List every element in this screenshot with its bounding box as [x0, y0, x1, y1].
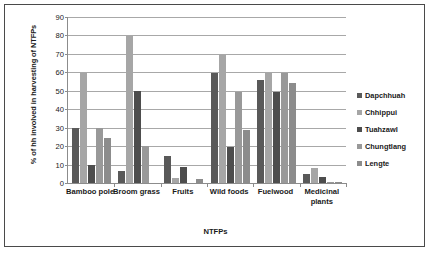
- y-axis-tick-mark: [65, 183, 68, 184]
- y-axis-tick-label: 80: [56, 31, 64, 40]
- x-axis-title: NTFPs: [5, 227, 426, 236]
- y-axis-tick-label: 60: [56, 68, 64, 77]
- y-axis-tick-label: 40: [56, 105, 64, 114]
- bar: [335, 182, 342, 183]
- plot-area: 0102030405060708090: [67, 17, 346, 184]
- bar-group: [68, 17, 114, 183]
- y-axis-tick-label: 90: [56, 13, 64, 22]
- legend-item: Chungtlang: [357, 138, 429, 155]
- y-axis-title: % of hh involved in harvesting of NTFPs: [29, 10, 38, 180]
- legend-label: Dapchhuah: [365, 91, 405, 100]
- bar-group: [300, 17, 346, 183]
- bar: [96, 128, 103, 183]
- legend-label: Chungtlang: [365, 142, 406, 151]
- bar: [134, 91, 141, 183]
- legend-swatch-icon: [357, 110, 362, 115]
- bar: [265, 73, 272, 183]
- y-axis-tick-label: 10: [56, 160, 64, 169]
- bar-group: [253, 17, 299, 183]
- bar: [243, 130, 250, 183]
- bar: [303, 174, 310, 183]
- bar: [72, 128, 79, 183]
- legend-item: Chhippui: [357, 104, 429, 121]
- bar: [327, 182, 334, 183]
- bar: [281, 73, 288, 183]
- bar: [196, 179, 203, 183]
- bar: [311, 168, 318, 183]
- chart-container: % of hh involved in harvesting of NTFPs …: [4, 4, 425, 247]
- y-axis-tick-label: 70: [56, 49, 64, 58]
- bar: [235, 92, 242, 183]
- legend-label: Tuahzawl: [365, 125, 398, 134]
- bar-group: [207, 17, 253, 183]
- bar: [180, 167, 187, 183]
- x-axis-category-label: Medicinal plants: [293, 187, 351, 207]
- legend-label: Chhippui: [365, 108, 397, 117]
- bar: [289, 83, 296, 183]
- legend-swatch-icon: [357, 161, 362, 166]
- bar: [88, 165, 95, 183]
- bar: [126, 36, 133, 183]
- bar: [104, 138, 111, 183]
- chart-legend: DapchhuahChhippuiTuahzawlChungtlangLengt…: [357, 87, 429, 172]
- bar: [227, 147, 234, 183]
- bar-group: [161, 17, 207, 183]
- bar: [219, 55, 226, 183]
- bar: [319, 177, 326, 183]
- bar: [273, 92, 280, 183]
- y-axis-tick-label: 30: [56, 123, 64, 132]
- bar: [118, 171, 125, 183]
- legend-item: Tuahzawl: [357, 121, 429, 138]
- y-axis-tick-label: 50: [56, 86, 64, 95]
- legend-item: Dapchhuah: [357, 87, 429, 104]
- bar: [142, 146, 149, 183]
- legend-label: Lengte: [365, 159, 389, 168]
- bar: [211, 73, 218, 183]
- bar: [80, 73, 87, 183]
- y-axis-tick-label: 20: [56, 142, 64, 151]
- bar: [172, 178, 179, 183]
- legend-item: Lengte: [357, 155, 429, 172]
- bar: [257, 80, 264, 183]
- legend-swatch-icon: [357, 127, 362, 132]
- bar-group: [114, 17, 160, 183]
- legend-swatch-icon: [357, 93, 362, 98]
- bar: [164, 156, 171, 183]
- legend-swatch-icon: [357, 144, 362, 149]
